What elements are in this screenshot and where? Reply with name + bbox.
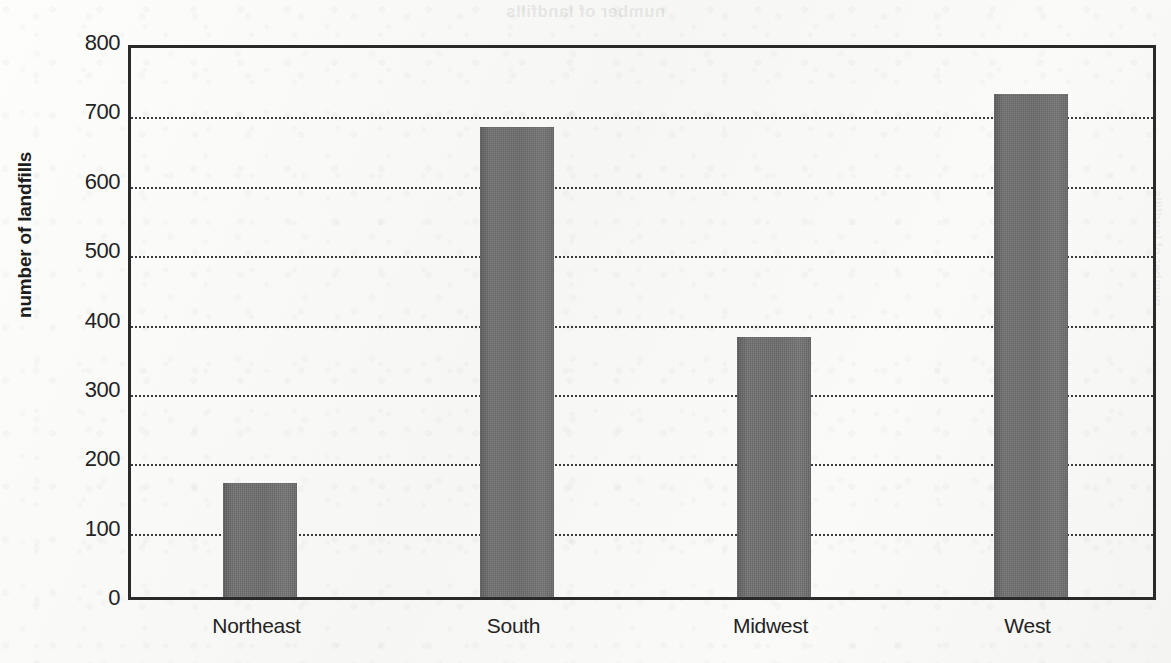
y-axis-tick-label: 400 xyxy=(62,308,120,334)
bar xyxy=(223,483,297,597)
x-axis-tick-label: Midwest xyxy=(661,614,881,638)
y-axis-tick-labels: 0100200300400500600700800 xyxy=(62,0,120,663)
bar xyxy=(994,94,1068,597)
y-axis-tick-label: 0 xyxy=(62,585,120,611)
plot-inner xyxy=(131,48,1153,597)
x-axis-tick-label: Northeast xyxy=(147,614,367,638)
ghost-bleedthrough-title: number of landfills xyxy=(0,2,1171,22)
y-axis-tick-label: 200 xyxy=(62,446,120,472)
y-axis-tick-label: 300 xyxy=(62,377,120,403)
plot-area xyxy=(128,45,1156,600)
bar xyxy=(737,337,811,597)
chart-page: number of landfills number of landfills … xyxy=(0,0,1171,663)
y-axis-tick-label: 100 xyxy=(62,516,120,542)
y-axis-tick-label: 500 xyxy=(62,238,120,264)
bar xyxy=(480,127,554,597)
y-axis-title: number of landfills xyxy=(14,152,36,318)
y-axis-tick-label: 800 xyxy=(62,30,120,56)
y-axis-tick-label: 700 xyxy=(62,99,120,125)
x-axis-tick-label: West xyxy=(918,614,1138,638)
y-axis-tick-label: 600 xyxy=(62,169,120,195)
x-axis-tick-label: South xyxy=(404,614,624,638)
